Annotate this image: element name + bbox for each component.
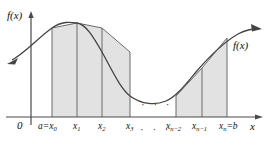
x-axis-label: x	[250, 121, 255, 132]
tick-label-x3: x3	[126, 122, 133, 132]
tick-label-x0: a=x0	[38, 122, 57, 132]
region-ellipsis: · · ·	[141, 98, 173, 110]
tick-label-x1: x1	[73, 122, 80, 132]
tick-label-x2-sub: 2	[102, 125, 105, 132]
tick-label-xn: xn=b	[219, 122, 238, 132]
tick-label-xn2: xn−2	[166, 122, 181, 132]
y-axis-label: f(x)	[7, 10, 22, 21]
curve-label: f(x)	[233, 40, 248, 51]
trapezoid-3	[102, 28, 130, 117]
tick-label-xn-suffix: =b	[226, 121, 237, 131]
tick-label-x3-sub: 3	[130, 125, 133, 132]
tick-label-xn1-sub: n−1	[196, 125, 207, 132]
tick-label-xn-sub: n	[223, 125, 226, 132]
trapezoidal-rule-figure: f(x) f(x) x 0 a=x0 x1 x2 x3 · · · xn−2 x…	[0, 0, 266, 152]
tick-label-x0-text: a=x	[38, 121, 53, 131]
trapezoid-5	[202, 38, 227, 117]
trapezoid-1	[52, 23, 77, 117]
curve-right-arrowhead	[251, 24, 262, 32]
tick-label-x0-sub: 0	[53, 125, 56, 132]
trapezoid-2	[77, 23, 102, 117]
tick-label-xn1: xn−1	[192, 122, 207, 132]
origin-label: 0	[17, 120, 23, 131]
tick-label-xn2-sub: n−2	[170, 125, 181, 132]
tick-label-x1-sub: 1	[77, 125, 80, 132]
tick-label-x2: x2	[98, 122, 105, 132]
y-axis-arrowhead	[28, 11, 33, 18]
x-axis-arrowhead	[255, 114, 263, 119]
